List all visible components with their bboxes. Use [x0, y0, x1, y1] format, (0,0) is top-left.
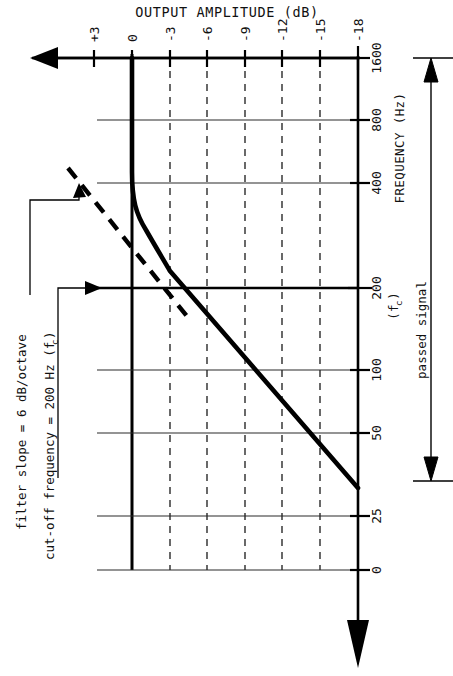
slope-annotation-label: filter slope = 6 dB/octave: [14, 334, 29, 530]
cutoff-annotation-label: cut-off frequency = 200 Hz (f: [42, 342, 57, 560]
passband-bracket: passed signal: [413, 58, 453, 481]
passband-arrowhead-top: [424, 58, 438, 82]
amplitude-axis-title: OUTPUT AMPLITUDE (dB): [135, 4, 318, 20]
grid-frequency-lines: [32, 58, 358, 570]
amplitude-tick-label: -6: [200, 26, 215, 42]
amplitude-tick-labels: +3 0 -3 -6 -9 -12 -15 -18: [87, 19, 366, 42]
cutoff-axis-note-sub: c: [394, 301, 404, 306]
amplitude-tick-label: 0: [125, 34, 140, 42]
frequency-tick-labels: 1600 800 400 200 100 50 25 0: [369, 42, 384, 574]
slope-annotation-leader: [30, 192, 79, 295]
cutoff-annotation-arrowhead: [85, 281, 102, 295]
cutoff-annotation-label-tail: ): [42, 331, 57, 339]
frequency-tick-label: 0: [369, 566, 384, 574]
frequency-tick-label: 50: [369, 425, 384, 441]
cutoff-annotation-leader: [58, 288, 89, 478]
cutoff-annotation-label-group: cut-off frequency = 200 Hz (f c ): [42, 331, 60, 560]
amplitude-axis-arrowhead: [30, 47, 58, 69]
cutoff-axis-note-close: ): [386, 292, 401, 300]
frequency-tick-label: 100: [369, 358, 384, 381]
frequency-tick-label: 200: [369, 276, 384, 299]
grid-amplitude-lines: [170, 58, 320, 570]
cutoff-annotation-label-sub: c: [50, 340, 60, 345]
amplitude-tick-label: +3: [87, 26, 102, 42]
cutoff-axis-note: (f c ): [386, 292, 404, 320]
frequency-axis-arrowhead: [347, 620, 369, 668]
amplitude-tick-label: -3: [163, 26, 178, 42]
cutoff-annotation: cut-off frequency = 200 Hz (f c ): [42, 281, 102, 560]
frequency-tick-label: 25: [369, 508, 384, 524]
filter-response-chart: +3 0 -3 -6 -9 -12 -15 -18 OUTPUT AMPLITU…: [0, 0, 453, 676]
frequency-axis-title: FREQUENCY (Hz): [392, 93, 407, 204]
amplitude-tick-label: -15: [313, 19, 328, 42]
frequency-tick-label: 400: [369, 171, 384, 194]
figure-canvas: +3 0 -3 -6 -9 -12 -15 -18 OUTPUT AMPLITU…: [0, 0, 453, 676]
amplitude-axis: [30, 46, 360, 70]
frequency-tick-label: 1600: [369, 42, 384, 73]
amplitude-tick-label: -12: [275, 19, 290, 42]
asymptote-line: [68, 168, 190, 320]
amplitude-tick-label: -9: [238, 26, 253, 42]
frequency-tick-label: 800: [369, 108, 384, 131]
passband-arrowhead-bottom: [424, 457, 438, 481]
passband-label: passed signal: [414, 281, 429, 379]
amplitude-tick-label: -18: [351, 19, 366, 42]
